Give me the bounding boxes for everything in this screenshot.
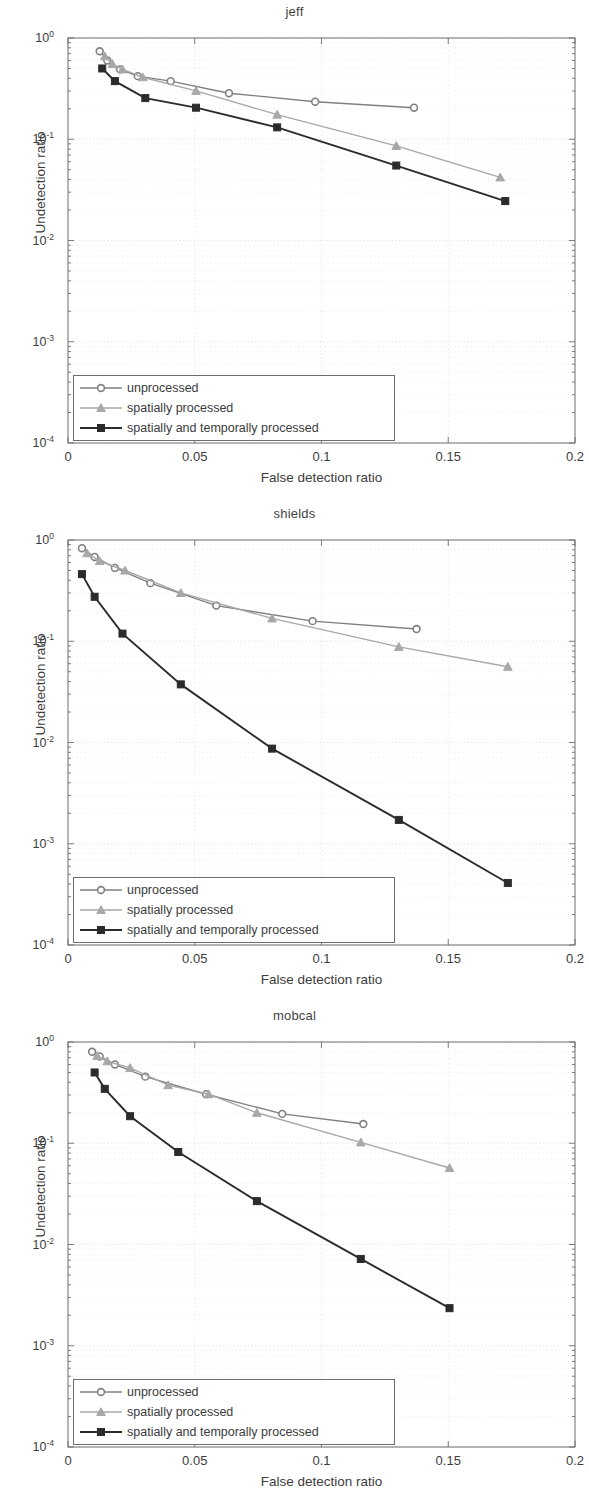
data-point [96,48,103,55]
data-point [395,816,402,823]
x-tick-label: 0.2 [545,1453,589,1468]
data-point [91,1069,98,1076]
y-tick-exponent: -3 [46,333,54,343]
data-point [274,124,281,131]
legend-label: unprocessed [124,381,199,395]
x-tick-label: 0.2 [545,449,589,464]
y-tick-exponent: -2 [46,232,54,242]
legend-marker-circle-icon [78,881,124,899]
y-tick-mantissa: 10 [33,837,47,851]
y-tick-mantissa: 10 [33,1339,47,1353]
y-tick-label: 100 [8,1033,54,1049]
legend-marker-circle-icon [78,1383,124,1401]
x-tick-label: 0.05 [165,951,225,966]
data-point [142,95,149,102]
y-axis-label: Undetection ratio [33,1077,48,1297]
legend-label: unprocessed [124,883,199,897]
y-tick-mantissa: 10 [33,335,47,349]
y-tick-exponent: -4 [46,1438,54,1448]
x-tick-label: 0 [38,449,98,464]
data-point [226,90,233,97]
legend-item-square: spatially and temporally processed [78,418,390,438]
x-tick-label: 0 [38,1453,98,1468]
y-tick-exponent: 0 [49,1033,54,1043]
y-axis-label: Undetection ratio [33,73,48,293]
x-tick-label: 0.1 [292,951,352,966]
legend-item-triangle: spatially processed [78,398,390,418]
x-axis-label: False detection ratio [68,470,575,485]
legend-marker-square-icon [78,921,124,939]
legend-item-circle: unprocessed [78,378,390,398]
x-axis-label: False detection ratio [68,1474,575,1489]
legend-marker-triangle-icon [78,1403,124,1421]
legend-label: spatially and temporally processed [124,1425,319,1439]
chart-legend: unprocessedspatially processedspatially … [73,375,395,441]
legend-marker-triangle-icon [78,399,124,417]
x-tick-label: 0.1 [292,449,352,464]
y-axis-label: Undetection ratio [33,575,48,795]
x-tick-label: 0.2 [545,951,589,966]
legend-item-triangle: spatially processed [78,900,390,920]
y-tick-exponent: -3 [46,835,54,845]
legend-item-circle: unprocessed [78,880,390,900]
y-tick-exponent: -2 [46,734,54,744]
data-point [446,1305,453,1312]
legend-marker-square-icon [78,1423,124,1441]
chart-legend: unprocessedspatially processedspatially … [73,1379,395,1445]
legend-marker-square-icon [78,419,124,437]
data-point [504,879,511,886]
y-tick-exponent: -1 [46,632,54,642]
plot-area: 10010-110-210-310-400.050.10.150.2Undete… [0,502,589,1004]
data-point [413,626,420,633]
data-point [193,104,200,111]
data-point [502,198,509,205]
legend-marker-triangle-icon [78,901,124,919]
chart-panel-mobcal: mobcal10010-110-210-310-400.050.10.150.2… [0,1004,589,1506]
data-point [309,618,316,625]
x-tick-label: 0.15 [418,449,478,464]
data-point [78,571,85,578]
data-point [253,1198,260,1205]
y-tick-label: 10-4 [8,1438,54,1454]
y-tick-label: 10-4 [8,434,54,450]
data-point [175,1148,182,1155]
y-tick-exponent: -4 [46,434,54,444]
y-tick-exponent: -1 [46,130,54,140]
data-point [127,1113,134,1120]
data-point [111,78,118,85]
y-tick-mantissa: 10 [35,533,49,547]
data-point [312,98,319,105]
data-point [393,162,400,169]
legend-marker-circle-icon [78,379,124,397]
data-point [279,1110,286,1117]
data-point [89,1048,96,1055]
y-tick-exponent: -4 [46,936,54,946]
y-tick-exponent: 0 [49,531,54,541]
chart-legend: unprocessedspatially processedspatially … [73,877,395,943]
x-tick-label: 0.1 [292,1453,352,1468]
x-tick-label: 0.05 [165,449,225,464]
y-tick-label: 10-3 [8,333,54,349]
y-tick-label: 10-3 [8,1337,54,1353]
y-tick-exponent: -2 [46,1236,54,1246]
y-tick-label: 100 [8,29,54,45]
y-tick-mantissa: 10 [35,1035,49,1049]
legend-label: spatially processed [124,401,233,415]
chart-panel-shields: shields10010-110-210-310-400.050.10.150.… [0,502,589,1004]
data-point [357,1255,364,1262]
x-tick-label: 0 [38,951,98,966]
data-point [177,681,184,688]
data-point [99,65,106,72]
legend-item-circle: unprocessed [78,1382,390,1402]
chart-panel-jeff: jeff10010-110-210-310-400.050.10.150.2Un… [0,0,589,502]
y-tick-exponent: -1 [46,1134,54,1144]
y-tick-label: 10-4 [8,936,54,952]
data-point [119,630,126,637]
legend-label: unprocessed [124,1385,199,1399]
data-point [269,745,276,752]
data-point [360,1121,367,1128]
legend-label: spatially and temporally processed [124,923,319,937]
legend-item-square: spatially and temporally processed [78,1422,390,1442]
x-tick-label: 0.15 [418,1453,478,1468]
data-point [101,1085,108,1092]
